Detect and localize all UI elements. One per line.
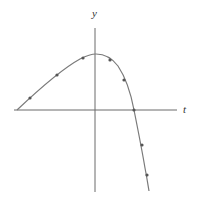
direction-marker-icon — [55, 73, 58, 76]
y-axis-label: y — [92, 7, 97, 19]
direction-marker-icon — [122, 78, 125, 81]
direction-marker-icon — [132, 108, 135, 111]
direction-marker-icon — [140, 143, 143, 146]
function-graph — [0, 0, 198, 201]
direction-marker-icon — [28, 96, 31, 99]
direction-marker-icon — [81, 56, 84, 59]
direction-markers — [28, 56, 148, 176]
solution-curve — [17, 54, 149, 191]
direction-marker-icon — [108, 58, 111, 61]
direction-marker-icon — [145, 173, 148, 176]
t-axis-label: t — [183, 103, 186, 115]
